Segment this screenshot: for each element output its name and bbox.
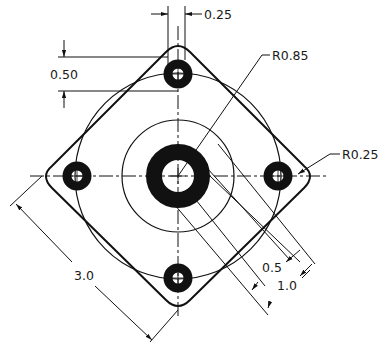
label-overall: 3.0 [74, 268, 94, 283]
label-hole-offset: 0.50 [50, 67, 78, 82]
dim-overall [10, 176, 178, 342]
technical-drawing: 0.25 0.50 R0.85 R0.25 3.0 0.5 1.0 [0, 0, 391, 354]
label-bolt-circle-radius: R0.85 [272, 48, 309, 63]
label-outer-dim: 1.0 [277, 278, 297, 293]
label-hole-width: 0.25 [204, 7, 232, 22]
leader-corner-radius [298, 154, 340, 174]
label-corner-radius: R0.25 [342, 147, 379, 162]
label-inner-dim: 0.5 [262, 260, 282, 275]
